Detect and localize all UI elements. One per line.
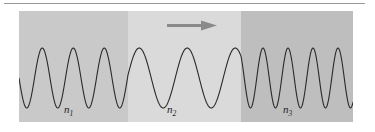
propagation-direction-arrow bbox=[167, 19, 217, 32]
medium-label-n3-subscript: 3 bbox=[289, 109, 293, 118]
medium-label-n3: n3 bbox=[283, 103, 292, 118]
refraction-figure: n1 n2 n3 bbox=[0, 0, 375, 132]
medium-label-n2: n2 bbox=[167, 103, 176, 118]
medium-label-n1: n1 bbox=[64, 103, 73, 118]
arrow-shaft bbox=[167, 24, 205, 27]
medium-label-n2-subscript: 2 bbox=[173, 109, 177, 118]
medium-label-n1-subscript: 1 bbox=[70, 109, 74, 118]
arrow-head-icon bbox=[201, 21, 217, 31]
top-divider-rule bbox=[4, 3, 365, 4]
illustration-panel: n1 n2 n3 bbox=[19, 11, 353, 122]
